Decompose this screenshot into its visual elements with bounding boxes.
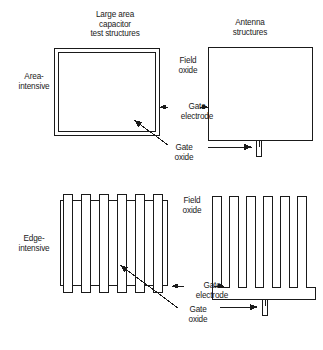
edge-left-finger <box>100 195 109 293</box>
antenna-plate <box>209 48 313 141</box>
label-field-oxide-top: Field oxide <box>166 56 210 75</box>
structure-edge-comb-left <box>61 195 168 293</box>
label-gate-oxide-top: Gate oxide <box>163 143 205 162</box>
gate-oxide-leader-to-capacitor <box>134 120 168 145</box>
capacitor-inner-plate <box>59 53 156 132</box>
row-label-area-intensive: Area- intensive <box>8 72 60 91</box>
row-label-edge-intensive: Edge- intensive <box>8 234 60 253</box>
figure-technical-diagram: Large area capacitor test structures Ant… <box>0 0 323 350</box>
label-gate-electrode-bottom: Gate electrode <box>186 281 238 300</box>
edge-left-finger <box>64 195 73 293</box>
edge-left-fingers <box>64 195 163 293</box>
edge-left-frame <box>61 201 168 286</box>
structure-large-area-capacitor <box>55 49 160 136</box>
edge-left-finger <box>82 195 91 293</box>
structure-antenna-plate <box>209 48 313 157</box>
label-field-oxide-bottom: Field oxide <box>170 196 214 215</box>
label-gate-electrode-top: Gate electrode <box>171 102 223 121</box>
gate-oxide-bottom-leader-to-stub <box>220 307 258 308</box>
gate-oxide-bottom-leader-to-comb <box>120 265 178 308</box>
capacitor-outer-plate <box>55 49 160 136</box>
title-large-area-capacitor: Large area capacitor test structures <box>60 10 170 39</box>
edge-left-finger <box>118 195 127 293</box>
diagram-canvas <box>0 0 323 350</box>
label-gate-oxide-bottom: Gate oxide <box>177 305 219 324</box>
title-antenna-structures: Antenna structures <box>198 18 302 37</box>
edge-left-finger <box>154 195 163 293</box>
